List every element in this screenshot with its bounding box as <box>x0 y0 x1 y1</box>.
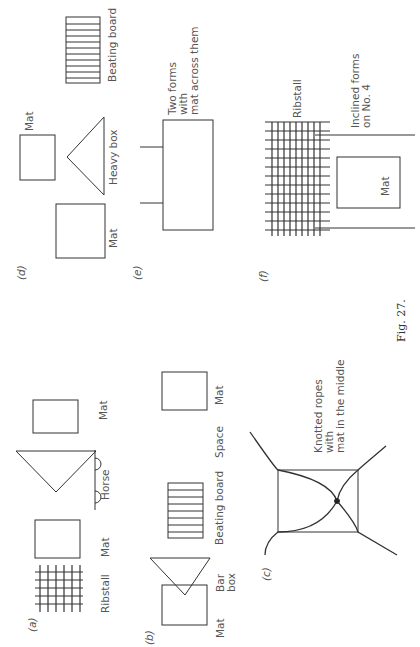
label-mat-f: Mat <box>380 176 391 196</box>
label-mat-b1: Mat <box>215 618 226 638</box>
mat-b2 <box>162 372 207 410</box>
beating-board-d <box>66 17 100 83</box>
ribstall-a <box>35 565 83 612</box>
label-ribstall-a: Ribstall <box>100 574 111 613</box>
tag-e: (e) <box>132 265 143 280</box>
beating-board-lines-d <box>66 24 100 78</box>
mat-a1 <box>35 520 80 558</box>
label-mat-d1: Mat <box>24 111 35 131</box>
figure-caption: Fig. 27. <box>396 299 407 342</box>
label-ribstall-f: Ribstall <box>292 79 303 118</box>
label-mat-a2: Mat <box>98 400 109 420</box>
two-forms-mat <box>163 120 213 230</box>
mat-a2 <box>33 400 78 433</box>
label-beating-board-b: Beating board <box>214 471 225 545</box>
heavy-box <box>67 117 104 195</box>
label-two-forms-3: mat across them <box>189 26 200 115</box>
tag-f: (f) <box>258 270 269 282</box>
label-space: Space <box>214 426 225 458</box>
tag-a: (a) <box>27 617 38 632</box>
label-inclined-2: on No. 4 <box>361 84 372 128</box>
bar-box <box>150 558 210 595</box>
label-mat-a1: Mat <box>100 537 111 557</box>
knot <box>335 499 340 504</box>
label-beating-board-d: Beating board <box>107 8 118 82</box>
label-mat-d2: Mat <box>108 228 119 248</box>
label-heavy-box: Heavy box <box>108 129 119 185</box>
mat-d2 <box>56 204 105 258</box>
label-box: box <box>226 573 237 592</box>
tag-d: (d) <box>16 265 27 280</box>
mat-b1 <box>162 585 207 625</box>
tag-c: (c) <box>261 567 272 581</box>
tag-b: (b) <box>144 630 155 645</box>
label-horse: Horse <box>100 469 111 500</box>
horse <box>16 451 96 492</box>
label-knotted-3: mat in the middle <box>335 360 346 453</box>
ribstall-f <box>265 122 330 236</box>
mat-d1 <box>20 135 55 180</box>
label-mat-b2: Mat <box>214 385 225 405</box>
rope-mat <box>278 470 358 532</box>
